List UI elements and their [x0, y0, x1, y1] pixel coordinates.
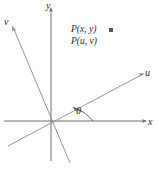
v-axis-label: v	[4, 17, 8, 27]
point-xy-label: P(x, y)	[71, 24, 97, 36]
y-axis-label: y	[46, 1, 50, 11]
u-axis-arrowhead	[139, 73, 145, 77]
v-axis-line	[13, 27, 70, 163]
point-uv-label: P(u, v)	[71, 36, 97, 48]
coordinate-axes-figure: y x u v θ P(x, y) P(u, v)	[0, 0, 158, 170]
u-axis-label: u	[145, 68, 150, 78]
point-annotation: P(x, y) P(u, v)	[71, 24, 97, 47]
x-axis-label: x	[148, 117, 152, 127]
theta-angle-label: θ	[76, 106, 81, 116]
point-marker	[109, 28, 113, 32]
